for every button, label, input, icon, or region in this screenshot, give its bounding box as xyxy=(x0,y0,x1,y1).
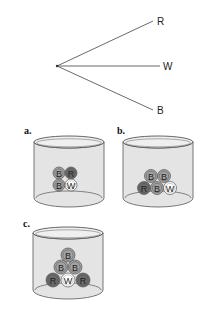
ball-w: W xyxy=(65,179,77,191)
ball-r: R xyxy=(138,182,151,195)
probability-diagram: RWB a.BRBWb.BBRBWc.BBBRWR xyxy=(0,0,206,312)
ball-w: W xyxy=(61,273,75,287)
cylinder-rim xyxy=(33,227,103,239)
ball-label: B xyxy=(65,251,71,261)
urn-panel-a: a.BRBW xyxy=(24,125,104,207)
ball-label: B xyxy=(72,263,78,273)
ball-b: B xyxy=(145,170,158,183)
branch-label-b: B xyxy=(157,105,164,116)
branch-line-b xyxy=(57,66,153,110)
ball-w: W xyxy=(164,182,177,195)
tree-diagram: RWB xyxy=(56,16,173,116)
urn-panel-b: b.BBRBW xyxy=(117,125,193,207)
ball-label: B xyxy=(58,263,64,273)
ball-label: W xyxy=(64,276,73,286)
ball-label: B xyxy=(56,181,62,191)
urn-panel-c: c.BBBRWR xyxy=(23,218,103,299)
ball-b: B xyxy=(53,167,65,179)
ball-r: R xyxy=(46,273,60,287)
tree-root-node xyxy=(56,65,58,67)
ball-b: B xyxy=(54,260,68,274)
ball-r: R xyxy=(65,167,77,179)
ball-b: B xyxy=(68,260,82,274)
ball-b: B xyxy=(61,248,75,262)
ball-label: R xyxy=(141,184,148,194)
branch-line-r xyxy=(57,21,153,66)
ball-label: R xyxy=(80,276,87,286)
ball-b: B xyxy=(158,170,171,183)
branch-label-r: R xyxy=(157,16,164,27)
cylinder-rim xyxy=(34,136,104,148)
urn-panels: a.BRBWb.BBRBWc.BBBRWR xyxy=(23,125,193,299)
ball-label: W xyxy=(166,184,175,194)
ball-r: R xyxy=(76,273,90,287)
ball-label: B xyxy=(154,184,160,194)
panel-label: b. xyxy=(117,125,126,136)
cylinder-rim xyxy=(123,136,193,148)
branch-label-w: W xyxy=(163,61,173,72)
panel-label: a. xyxy=(24,125,32,136)
ball-label: B xyxy=(161,172,167,182)
ball-b: B xyxy=(151,182,164,195)
ball-label: R xyxy=(68,169,75,179)
ball-label: W xyxy=(67,181,76,191)
ball-b: B xyxy=(53,179,65,191)
ball-label: R xyxy=(50,276,57,286)
panel-label: c. xyxy=(23,218,30,229)
ball-label: B xyxy=(148,172,154,182)
ball-label: B xyxy=(56,169,62,179)
